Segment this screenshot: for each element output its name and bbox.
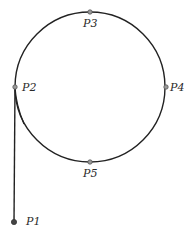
label-p3: P3 [82,17,97,30]
segment-p1-p2 [14,87,15,222]
label-p1: P1 [25,215,40,228]
label-p5: P5 [82,167,97,180]
point-p4-marker [164,85,168,89]
point-p5-marker [88,160,92,164]
label-p2: P2 [21,81,36,94]
point-p2-marker [13,85,17,89]
circle-path [15,12,165,162]
point-p1-marker [11,219,16,224]
point-p3-marker [88,10,92,14]
path-diagram: P1 P2 P3 P4 P5 [0,0,187,237]
label-p4: P4 [169,81,184,94]
